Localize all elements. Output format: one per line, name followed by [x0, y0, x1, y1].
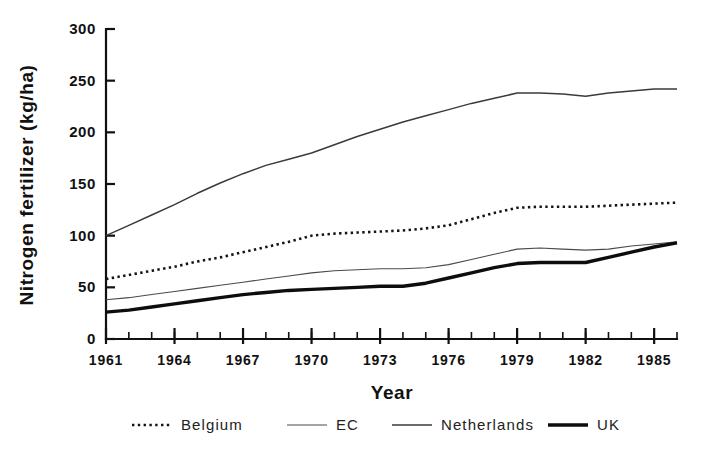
legend-label-ec: EC [336, 416, 359, 433]
legend-label-uk: UK [597, 416, 620, 433]
x-tick-label-group: 196119641967197019731976197919821985 [89, 352, 672, 368]
x-tick-label: 1979 [500, 352, 534, 368]
y-tick-label: 300 [69, 20, 96, 37]
legend-label-netherlands: Netherlands [441, 416, 534, 433]
legend-label-belgium: Belgium [181, 416, 243, 433]
y-tick-label: 150 [69, 175, 96, 192]
series-line-uk [106, 243, 677, 312]
x-tick-label: 1973 [363, 352, 397, 368]
chart-svg: Nitrogen fertilizer (kg/ha) 050100150200… [0, 0, 701, 464]
x-tick-label: 1982 [568, 352, 602, 368]
y-tick-label-group: 050100150200250300 [69, 20, 96, 347]
series-line-ec [106, 242, 677, 300]
x-axis-title: Year [371, 382, 414, 403]
y-tick-label: 50 [78, 278, 96, 295]
x-tick-label: 1961 [89, 352, 123, 368]
axis-group [106, 29, 677, 339]
x-tick-label: 1976 [431, 352, 465, 368]
y-axis-title: Nitrogen fertilizer (kg/ha) [16, 64, 37, 305]
series-line-netherlands [106, 89, 677, 236]
y-tick-label: 100 [69, 227, 96, 244]
x-tick-label: 1985 [637, 352, 671, 368]
y-tick-label: 200 [69, 123, 96, 140]
y-tick-label: 250 [69, 72, 96, 89]
x-major-tick-group [106, 328, 654, 344]
x-tick-label: 1964 [157, 352, 191, 368]
series-line-belgium [106, 203, 677, 279]
y-tick-group [106, 29, 115, 339]
y-tick-label: 0 [87, 330, 96, 347]
series-group [106, 89, 677, 312]
x-tick-label: 1967 [226, 352, 260, 368]
chart-figure: Nitrogen fertilizer (kg/ha) 050100150200… [0, 0, 701, 464]
chart-legend: BelgiumECNetherlandsUK [132, 416, 620, 433]
x-tick-label: 1970 [294, 352, 328, 368]
